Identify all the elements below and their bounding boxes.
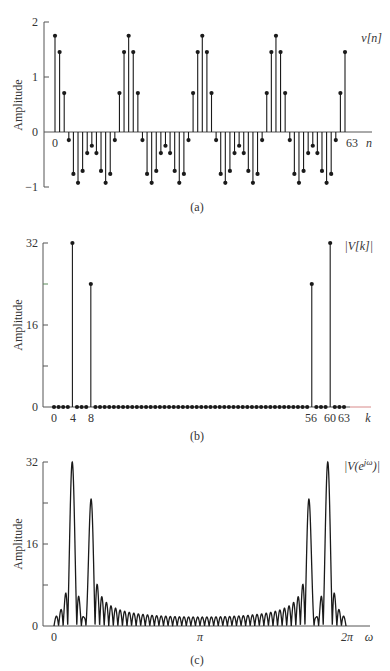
panel-a-ylabel: Amplitude bbox=[11, 79, 25, 130]
panel-b-ytick-32: 32 bbox=[26, 236, 38, 250]
panel-b-xtick-4: 4 bbox=[70, 411, 76, 425]
stem-marker bbox=[209, 91, 213, 95]
panel-a-series-label: v[n] bbox=[361, 31, 382, 45]
stem-marker bbox=[265, 91, 269, 95]
stem-marker bbox=[242, 151, 246, 155]
stem-marker bbox=[67, 138, 71, 142]
panel-a-ytick-2: 2 bbox=[32, 15, 38, 29]
panel-c-xname: ω bbox=[365, 630, 373, 644]
stem-marker bbox=[159, 151, 163, 155]
stem-marker bbox=[52, 405, 56, 409]
panel-a-xtick-63: 63 bbox=[346, 136, 358, 150]
stem-marker bbox=[177, 181, 181, 185]
panel-c-ytick-0: 0 bbox=[32, 619, 38, 633]
stem-marker bbox=[268, 405, 272, 409]
stem-marker bbox=[84, 405, 88, 409]
stem-marker bbox=[218, 405, 222, 409]
panel-c-series-label: |V(ejω)| bbox=[344, 457, 380, 473]
stem-marker bbox=[199, 405, 203, 409]
stem-marker bbox=[181, 405, 185, 409]
stem-marker bbox=[80, 405, 84, 409]
stem-marker bbox=[190, 405, 194, 409]
stem-marker bbox=[200, 34, 204, 38]
stem-marker bbox=[278, 50, 282, 54]
panel-b-xtick-60: 60 bbox=[324, 411, 336, 425]
stem-marker bbox=[291, 405, 295, 409]
panel-a-caption: (a) bbox=[190, 200, 203, 214]
stem-marker bbox=[173, 169, 177, 173]
stem-marker bbox=[310, 282, 314, 286]
stem-marker bbox=[269, 50, 273, 54]
stem-marker bbox=[333, 405, 337, 409]
panel-c: 32 16 0 Amplitude 0 π 2π ω |V(ejω)| (c) bbox=[11, 455, 380, 667]
panel-a-xtick-0: 0 bbox=[52, 136, 58, 150]
stem-marker bbox=[107, 405, 111, 409]
panel-b-ytick-0: 0 bbox=[32, 400, 38, 414]
stem-marker bbox=[264, 405, 268, 409]
stem-marker bbox=[94, 151, 98, 155]
panel-b-xtick-56: 56 bbox=[305, 411, 317, 425]
stem-marker bbox=[228, 169, 232, 173]
stem-marker bbox=[227, 405, 231, 409]
stem-marker bbox=[222, 405, 226, 409]
panel-b-ytick-16: 16 bbox=[26, 318, 38, 332]
panel-b-xtick-63: 63 bbox=[338, 411, 350, 425]
stem-marker bbox=[58, 50, 62, 54]
stem-marker bbox=[136, 91, 140, 95]
stem-marker bbox=[163, 144, 167, 148]
panel-b-xtick-0: 0 bbox=[51, 411, 57, 425]
stem-marker bbox=[254, 405, 258, 409]
stem-marker bbox=[245, 405, 249, 409]
stem-marker bbox=[76, 181, 80, 185]
panel-c-series-end: )| bbox=[372, 459, 380, 473]
stem-marker bbox=[214, 138, 218, 142]
stem-marker bbox=[158, 405, 162, 409]
stem-marker bbox=[213, 405, 217, 409]
stem-marker bbox=[311, 144, 315, 148]
stem-marker bbox=[167, 405, 171, 409]
panel-b-xname: k bbox=[365, 411, 371, 425]
stem-marker bbox=[236, 405, 240, 409]
stem-marker bbox=[196, 50, 200, 54]
stem-marker bbox=[283, 91, 287, 95]
stem-marker bbox=[127, 34, 131, 38]
stem-marker bbox=[205, 50, 209, 54]
stem-marker bbox=[277, 405, 281, 409]
stem-marker bbox=[130, 405, 134, 409]
stem-marker bbox=[287, 405, 291, 409]
stem-marker bbox=[98, 405, 102, 409]
stem-marker bbox=[53, 34, 57, 38]
stem-marker bbox=[301, 169, 305, 173]
stem-marker bbox=[89, 282, 93, 286]
stem-marker bbox=[145, 172, 149, 176]
stem-marker bbox=[342, 405, 346, 409]
panel-b-stems bbox=[52, 241, 346, 409]
stem-marker bbox=[117, 91, 121, 95]
panel-c-series-base: |V(e bbox=[344, 459, 365, 473]
stem-marker bbox=[85, 151, 89, 155]
panel-b-axes bbox=[43, 243, 371, 407]
stem-marker bbox=[122, 50, 126, 54]
stem-marker bbox=[315, 151, 319, 155]
panel-a-ytick-1: 1 bbox=[32, 70, 38, 84]
stem-marker bbox=[292, 172, 296, 176]
stem-marker bbox=[338, 91, 342, 95]
panel-b-caption: (b) bbox=[190, 429, 204, 443]
stem-marker bbox=[113, 138, 117, 142]
panel-c-caption: (c) bbox=[190, 653, 203, 667]
panel-a-axes bbox=[44, 22, 372, 187]
stem-marker bbox=[288, 138, 292, 142]
stem-marker bbox=[274, 34, 278, 38]
stem-marker bbox=[314, 405, 318, 409]
panel-c-ytick-16: 16 bbox=[26, 537, 38, 551]
stem-marker bbox=[343, 50, 347, 54]
stem-marker bbox=[323, 405, 327, 409]
stem-marker bbox=[135, 405, 139, 409]
stem-marker bbox=[131, 50, 135, 54]
stem-marker bbox=[62, 91, 66, 95]
stem-marker bbox=[334, 138, 338, 142]
panel-c-dtft-curve bbox=[54, 462, 346, 626]
stem-marker bbox=[103, 405, 107, 409]
stem-marker bbox=[324, 181, 328, 185]
stem-marker bbox=[75, 405, 79, 409]
